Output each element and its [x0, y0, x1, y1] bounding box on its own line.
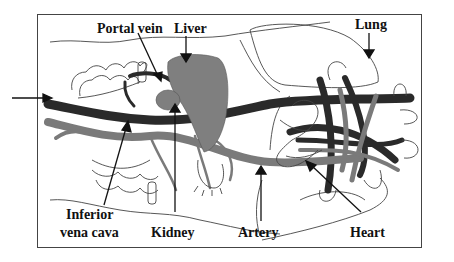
intestine-upper	[72, 62, 147, 98]
kidney-lower-bundle	[194, 160, 224, 196]
label-kidney: Kidney	[151, 226, 195, 240]
circulatory-diagram	[0, 0, 454, 262]
heart-outline	[277, 100, 322, 166]
label-lung: Lung	[355, 18, 387, 32]
label-liver: Liver	[174, 22, 207, 36]
label-inferior: Inferior	[66, 208, 113, 222]
intestine-lower	[92, 160, 158, 204]
label-portal-vein: Portal vein	[97, 22, 163, 36]
label-vena-cava: vena cava	[60, 226, 119, 240]
label-artery: Artery	[238, 226, 278, 240]
label-heart: Heart	[350, 226, 385, 240]
